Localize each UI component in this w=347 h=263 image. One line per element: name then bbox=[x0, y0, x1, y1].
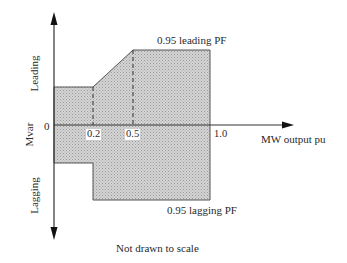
x-tick-1.0: 1.0 bbox=[214, 129, 227, 140]
y-axis-upper-label: Leading bbox=[29, 55, 40, 91]
footnote: Not drawn to scale bbox=[116, 243, 199, 254]
lagging-pf-annotation: 0.95 lagging PF bbox=[167, 205, 237, 216]
x-tick-0.5: 0.5 bbox=[125, 129, 140, 140]
y-axis-up-arrow-icon bbox=[51, 12, 58, 25]
y-axis-down-arrow-icon bbox=[51, 227, 58, 240]
x-tick-0.2: 0.2 bbox=[86, 129, 101, 140]
y-axis-label: Mvar bbox=[24, 123, 35, 147]
x-axis-label: MW output pu bbox=[261, 134, 326, 145]
origin-label: 0 bbox=[44, 121, 50, 132]
x-axis-arrow-icon bbox=[282, 122, 294, 129]
leading-pf-annotation: 0.95 leading PF bbox=[157, 35, 226, 46]
y-axis-lower-label: Lagging bbox=[29, 177, 40, 214]
